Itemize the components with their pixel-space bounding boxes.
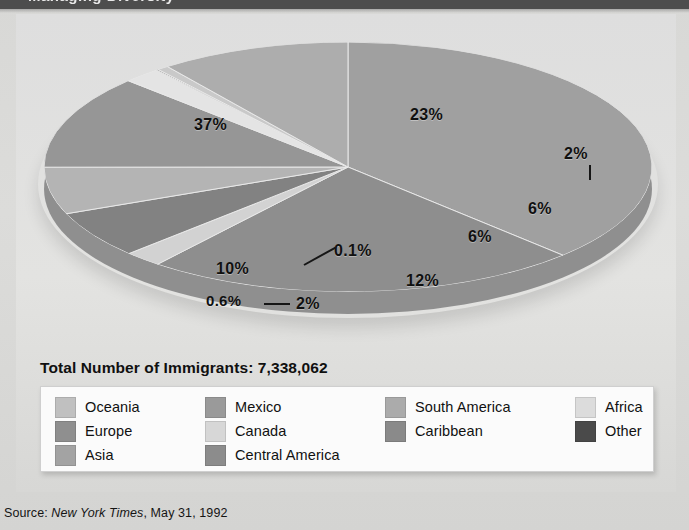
leader-line-oceania — [589, 165, 591, 180]
legend-grid: OceaniaMexicoSouth AmericaAfricaEuropeCa… — [55, 395, 647, 467]
legend-item[interactable]: Central America — [205, 445, 385, 466]
source-note: Source: New York Times, May 31, 1992 — [4, 506, 228, 520]
legend-swatch — [55, 397, 76, 418]
legend-label: South America — [415, 399, 511, 415]
legend-label: Caribbean — [415, 423, 483, 439]
legend-label: Europe — [85, 423, 132, 439]
pie-chart: 37% 23% 2% 6% 6% 12% 0.1% 0.6% 2% 10% — [16, 20, 676, 350]
source-prefix: Source: — [4, 506, 51, 520]
legend-item[interactable]: Caribbean — [385, 421, 575, 442]
chart-legend: OceaniaMexicoSouth AmericaAfricaEuropeCa… — [40, 386, 654, 472]
slice-label-other: 0.1% — [334, 242, 372, 260]
legend-label: Africa — [605, 399, 643, 415]
source-publication: New York Times — [51, 506, 143, 520]
legend-swatch — [575, 397, 596, 418]
legend-swatch — [205, 421, 226, 442]
legend-label: Other — [605, 423, 642, 439]
legend-swatch — [575, 421, 596, 442]
legend-item[interactable]: Africa — [575, 397, 689, 418]
legend-label: Canada — [235, 423, 286, 439]
source-suffix: , May 31, 1992 — [143, 506, 227, 520]
slice-label-mexico: 12% — [406, 272, 439, 290]
slice-label-asia: 37% — [194, 116, 227, 134]
legend-label: Mexico — [235, 399, 282, 415]
slice-label-central-america: 2% — [296, 295, 320, 313]
legend-item[interactable]: Asia — [55, 445, 205, 466]
legend-swatch — [205, 445, 226, 466]
total-immigrants-label: Total Number of Immigrants: 7,338,062 — [40, 359, 328, 377]
leader-line-africa — [264, 303, 290, 305]
legend-label: Oceania — [85, 399, 140, 415]
legend-label: Asia — [85, 447, 114, 463]
legend-swatch — [385, 397, 406, 418]
page-header-title: Managing Diversity — [28, 0, 175, 4]
legend-swatch — [55, 421, 76, 442]
legend-swatch — [55, 445, 76, 466]
slice-label-oceania: 2% — [564, 145, 588, 163]
legend-item[interactable]: Canada — [205, 421, 385, 442]
slice-label-caribbean: 6% — [528, 200, 552, 218]
slice-label-europe: 23% — [410, 106, 443, 124]
header-shadow — [0, 9, 689, 13]
legend-swatch — [385, 421, 406, 442]
slice-label-south-america: 6% — [468, 228, 492, 246]
legend-item[interactable]: Europe — [55, 421, 205, 442]
slice-label-canada: 10% — [216, 260, 249, 278]
legend-label: Central America — [235, 447, 340, 463]
legend-item[interactable]: Mexico — [205, 397, 385, 418]
chart-plate: 37% 23% 2% 6% 6% 12% 0.1% 0.6% 2% 10% To… — [16, 14, 676, 492]
page-header-bar: Managing Diversity — [0, 0, 689, 9]
legend-item[interactable]: Oceania — [55, 397, 205, 418]
legend-item[interactable]: South America — [385, 397, 575, 418]
legend-swatch — [205, 397, 226, 418]
legend-item[interactable]: Other — [575, 421, 689, 442]
chart-page: Managing Diversity 37% 23% 2% 6% 6% 12% … — [0, 0, 689, 530]
slice-label-africa: 0.6% — [206, 292, 241, 309]
